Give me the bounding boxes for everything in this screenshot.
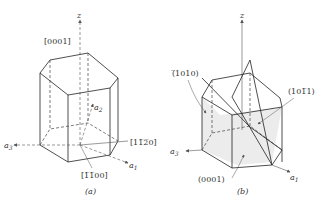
a2-label: a2 xyxy=(94,103,103,113)
a1-axis xyxy=(80,145,128,163)
plane-minus1010-label: (̅1010) xyxy=(171,69,198,78)
a1-label-a: a1 xyxy=(129,161,138,171)
a3-label-b: a3 xyxy=(170,147,179,157)
a1-axis-b xyxy=(272,165,290,172)
plane-0001-label: (0001) xyxy=(198,175,225,184)
a3-axis-b xyxy=(186,150,202,151)
a1-label-b: a1 xyxy=(290,173,299,183)
a3-label-a: a3 xyxy=(4,141,13,151)
top-face-a xyxy=(40,53,118,95)
caption-a: (a) xyxy=(85,187,96,196)
figure-a: z [0001] a2 a3 [11̅2̅0] a1 [1̅1̅00] (a) xyxy=(4,11,157,196)
z-label-b: z xyxy=(239,11,245,20)
caption-b: (b) xyxy=(237,187,248,196)
dir-1-100-label: [1̅1̅00] xyxy=(81,171,108,180)
figure-b: z (̅1010) (101̅1) a3 a1 (0001) (b) xyxy=(170,11,315,196)
dir-11-20-label: [11̅2̅0] xyxy=(130,138,157,147)
dir-0001-label: [0001] xyxy=(44,37,71,46)
z-label-a: z xyxy=(76,11,82,20)
hexagonal-crystal-diagram: z [0001] a2 a3 [11̅2̅0] a1 [1̅1̅00] (a) … xyxy=(0,0,326,205)
plane-10minus11-label: (101̅1) xyxy=(288,87,315,96)
